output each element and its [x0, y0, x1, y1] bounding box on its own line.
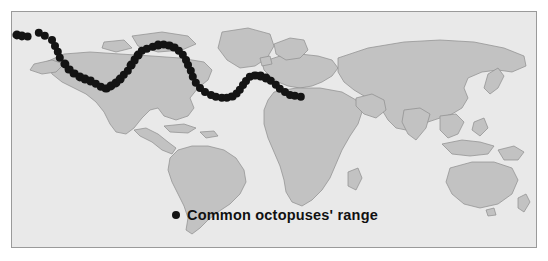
- map-frame: Common octopuses' range: [11, 11, 537, 248]
- legend-label: Common octopuses' range: [187, 208, 378, 223]
- octopus-range-map-figure: Common octopuses' range: [0, 0, 548, 261]
- british-isles-land: [260, 56, 272, 66]
- filled-circle-icon: [172, 211, 180, 219]
- map-legend: Common octopuses' range: [12, 208, 537, 223]
